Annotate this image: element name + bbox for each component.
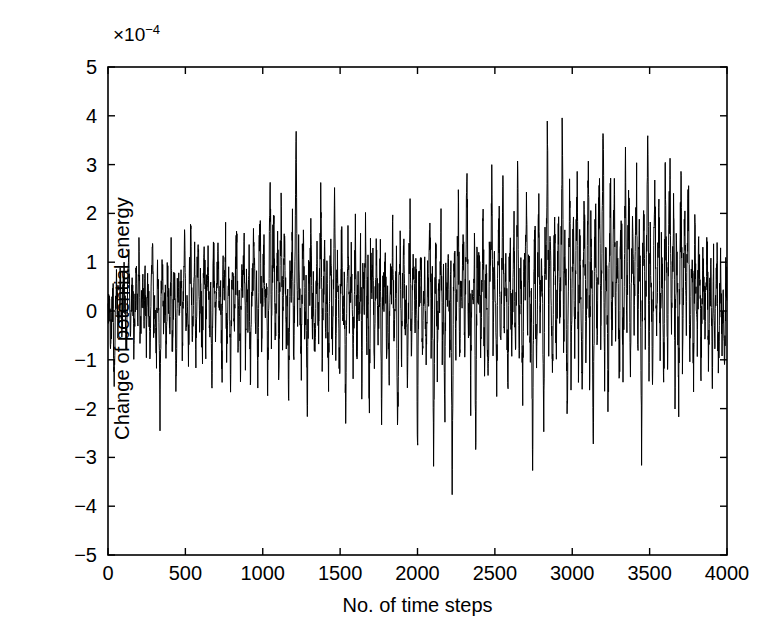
- y-tick-label: 4: [86, 104, 97, 127]
- x-tick-label: 2500: [473, 562, 518, 585]
- y-tick-label: 3: [86, 153, 97, 176]
- y-tick-label: −5: [74, 544, 97, 567]
- data-series-group: [108, 118, 727, 495]
- x-tick-label: 2000: [395, 562, 440, 585]
- x-tick-label: 1500: [318, 562, 363, 585]
- x-tick-label: 500: [169, 562, 202, 585]
- y-tick-label: −3: [74, 446, 97, 469]
- x-tick-label: 3000: [550, 562, 595, 585]
- y-tick-label: 1: [86, 251, 97, 274]
- y-tick-label: −4: [74, 495, 97, 518]
- y-tick-label: −1: [74, 348, 97, 371]
- figure: ×10−4 Change of potential energy No. of …: [0, 0, 779, 641]
- plot-area: [0, 0, 779, 641]
- x-tick-label: 0: [102, 562, 113, 585]
- y-tick-label: 5: [86, 56, 97, 79]
- y-tick-label: 0: [86, 300, 97, 323]
- x-tick-label: 4000: [705, 562, 750, 585]
- x-tick-label: 3500: [627, 562, 672, 585]
- x-tick-label: 1000: [241, 562, 286, 585]
- y-tick-label: −2: [74, 397, 97, 420]
- y-tick-label: 2: [86, 202, 97, 225]
